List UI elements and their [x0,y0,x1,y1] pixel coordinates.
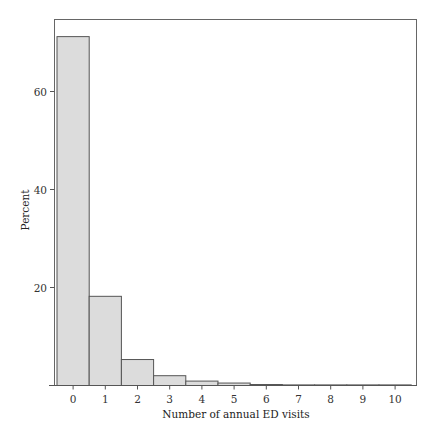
y-tick-label: 20 [34,282,47,294]
x-tick-label: 6 [263,393,270,405]
histogram-chart: 012345678910 204060 Number of annual ED … [0,0,436,440]
bar-4 [186,381,218,385]
x-axis-label: Number of annual ED visits [162,408,309,420]
x-tick-label: 5 [231,393,238,405]
bar-1 [89,296,121,385]
bar-0 [57,37,89,386]
x-ticks: 012345678910 [70,386,402,405]
bar-3 [154,376,186,386]
x-tick-label: 8 [327,393,334,405]
x-tick-label: 1 [102,393,109,405]
x-tick-label: 0 [70,393,77,405]
y-ticks: 204060 [34,86,55,294]
y-tick-label: 60 [34,86,47,98]
y-axis-label: Percent [19,189,31,231]
x-tick-label: 10 [388,393,401,405]
x-tick-label: 4 [199,393,206,405]
x-tick-label: 7 [295,393,302,405]
x-tick-label: 9 [360,393,367,405]
bars [57,37,411,386]
x-tick-label: 2 [134,393,141,405]
y-tick-label: 40 [34,184,47,196]
x-tick-label: 3 [166,393,173,405]
bar-2 [121,360,153,386]
